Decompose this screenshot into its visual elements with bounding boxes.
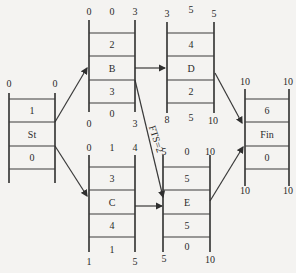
st-label: St bbox=[28, 129, 37, 140]
node-value-4-bottom_mid: 0 bbox=[185, 241, 190, 252]
edge-st-c bbox=[55, 146, 87, 196]
network-diagram: FTS=2 0 0 1 St 0 0 0 3 2 B 3 0 0 3 bbox=[0, 0, 296, 273]
node-value-2-label: C bbox=[109, 197, 116, 208]
node-value-1-top_right: 3 bbox=[133, 6, 138, 17]
node-value-1-top_left: 0 bbox=[87, 6, 92, 17]
node-value-4-top_left: 5 bbox=[162, 146, 167, 157]
node-value-4-label: E bbox=[184, 197, 190, 208]
node-value-1-bottom_right: 3 bbox=[133, 118, 138, 129]
node-value-2-top_left: 0 bbox=[87, 142, 92, 153]
node-value-3-bottom_mid: 5 bbox=[189, 112, 194, 123]
node-value-5-bottom_left: 10 bbox=[240, 185, 250, 196]
node-value-3-float_mid: 2 bbox=[189, 86, 194, 97]
edge-d-fin bbox=[215, 73, 242, 123]
node-value-1-float_mid: 3 bbox=[110, 86, 115, 97]
node-value-3-top_mid: 5 bbox=[189, 4, 194, 15]
node-value-3-label: D bbox=[187, 63, 194, 74]
node-e: 5 0 10 5 E 5 5 0 10 bbox=[162, 146, 216, 265]
node-value-1-top_mid: 0 bbox=[110, 6, 115, 17]
node-value-4-top_mid: 0 bbox=[185, 146, 190, 157]
node-value-5-top_right: 10 bbox=[283, 76, 293, 87]
node-value-5-top_left: 10 bbox=[240, 76, 250, 87]
node-value-4-duration: 5 bbox=[185, 173, 190, 184]
node-value-5-float_mid: 0 bbox=[265, 152, 270, 163]
node-value-1-bottom_mid: 0 bbox=[110, 108, 115, 119]
node-value-1-label: B bbox=[109, 63, 116, 74]
node-value-5-duration: 6 bbox=[265, 105, 270, 116]
node-value-3-bottom_right: 10 bbox=[208, 115, 218, 126]
node-value-4-top_right: 10 bbox=[205, 146, 215, 157]
node-value-3-bottom_left: 8 bbox=[165, 114, 170, 125]
node-value-2-float_mid: 4 bbox=[110, 220, 115, 231]
st-ef: 0 bbox=[53, 78, 58, 89]
node-value-2-bottom_left: 1 bbox=[87, 256, 92, 267]
node-value-2-duration: 3 bbox=[110, 173, 115, 184]
node-c: 0 1 4 3 C 4 1 1 5 bbox=[87, 142, 138, 267]
node-value-2-top_right: 4 bbox=[133, 142, 138, 153]
node-value-3-top_left: 3 bbox=[165, 8, 170, 19]
node-value-2-bottom_right: 5 bbox=[133, 256, 138, 267]
edge-st-b bbox=[55, 68, 87, 122]
node-value-3-duration: 4 bbox=[189, 39, 194, 50]
node-b: 0 0 3 2 B 3 0 0 3 bbox=[87, 6, 138, 129]
node-value-4-bottom_right: 10 bbox=[205, 254, 215, 265]
st-es: 0 bbox=[7, 78, 12, 89]
node-value-5-bottom_right: 10 bbox=[283, 185, 293, 196]
node-value-1-duration: 2 bbox=[110, 39, 115, 50]
node-st: 0 0 1 St 0 bbox=[7, 78, 58, 183]
node-d: 3 5 5 4 D 2 8 5 10 bbox=[165, 4, 219, 126]
node-fin: 10 10 6 Fin 0 10 10 bbox=[240, 76, 293, 196]
node-value-4-bottom_left: 5 bbox=[162, 253, 167, 264]
st-float: 0 bbox=[30, 152, 35, 163]
st-duration: 1 bbox=[30, 105, 35, 116]
node-value-3-top_right: 5 bbox=[212, 8, 217, 19]
node-value-2-bottom_mid: 1 bbox=[110, 244, 115, 255]
node-value-5-label: Fin bbox=[260, 129, 273, 140]
node-value-1-bottom_left: 0 bbox=[87, 118, 92, 129]
node-value-4-float_mid: 5 bbox=[185, 220, 190, 231]
node-value-2-top_mid: 1 bbox=[110, 142, 115, 153]
